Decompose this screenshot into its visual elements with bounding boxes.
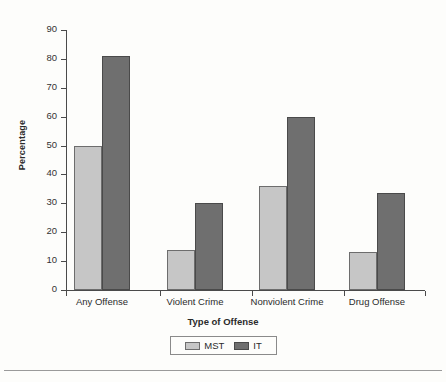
y-axis-tick: 40 [61, 174, 66, 175]
legend-label: MST [204, 340, 224, 351]
y-axis-line [66, 30, 67, 291]
x-axis-line [66, 290, 425, 291]
x-axis-category-label: Drug Offense [317, 296, 437, 307]
y-axis-tick-label: 50 [46, 139, 57, 150]
y-axis-tick: 50 [61, 146, 66, 147]
y-axis-tick-label: 10 [46, 254, 57, 265]
bar-mst-violent-crime [167, 250, 195, 290]
bar-mst-any-offense [74, 146, 102, 290]
y-axis-tick-label: 60 [46, 110, 57, 121]
y-axis-tick-label: 20 [46, 225, 57, 236]
legend-swatch-mst-icon [185, 342, 200, 350]
bar-it-any-offense [102, 56, 130, 290]
y-axis-tick: 60 [61, 117, 66, 118]
y-axis-title: Percentage [17, 100, 27, 190]
y-axis-tick-label: 70 [46, 81, 57, 92]
y-axis-tick: 80 [61, 59, 66, 60]
chart-legend: MSTIT [170, 336, 277, 355]
plot-area: 0102030405060708090 [66, 30, 425, 290]
bar-it-violent-crime [195, 203, 223, 290]
bar-it-nonviolent-crime [287, 117, 315, 290]
y-axis-tick: 10 [61, 261, 66, 262]
y-axis-tick-label: 30 [46, 196, 57, 207]
bar-mst-nonviolent-crime [259, 186, 287, 290]
legend-entry-mst: MST [185, 340, 224, 351]
page-divider-rule [4, 370, 442, 371]
y-axis-tick-label: 90 [46, 23, 57, 34]
y-axis-tick-label: 0 [52, 283, 57, 294]
bar-mst-drug-offense [349, 252, 377, 290]
legend-label: IT [253, 340, 261, 351]
bar-it-drug-offense [377, 193, 405, 290]
y-axis-tick: 20 [61, 232, 66, 233]
bar-chart-figure: Percentage 0102030405060708090 Any Offen… [0, 0, 446, 382]
x-axis-title: Type of Offense [0, 316, 446, 327]
y-axis-tick-label: 80 [46, 52, 57, 63]
y-axis-tick-label: 40 [46, 167, 57, 178]
y-axis-tick: 30 [61, 203, 66, 204]
legend-entry-it: IT [234, 340, 261, 351]
y-axis-tick: 70 [61, 88, 66, 89]
y-axis-tick: 90 [61, 30, 66, 31]
legend-swatch-it-icon [234, 342, 249, 350]
